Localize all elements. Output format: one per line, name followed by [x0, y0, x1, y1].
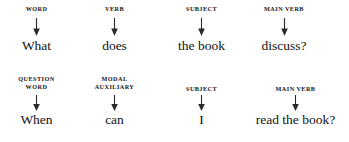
word-wrap: I [160, 109, 243, 127]
label-wrap: WORD [0, 0, 73, 16]
word-wrap: can [78, 109, 151, 127]
arrow-wrap [243, 93, 348, 109]
down-arrow-icon [280, 18, 289, 37]
sentence-word: What [22, 38, 51, 53]
label-line-1: MODAL [102, 75, 128, 82]
diagram-cell-row1-col4: MAIN VERB discuss? [243, 0, 325, 71]
label-line-1: WORD [26, 5, 48, 12]
part-of-speech-label: WORD [26, 5, 48, 13]
word-wrap: What [0, 36, 73, 53]
diagram-cell-row2-col1: QUESTION WORD When [0, 71, 73, 142]
down-arrow-icon [197, 18, 206, 37]
word-wrap: read the book? [243, 109, 348, 127]
diagram-cell-row2-col3: SUBJECT I [160, 71, 243, 142]
sentence-word: the book [178, 38, 225, 53]
diagram-cell-row2-col2: MODAL AUXILIARY can [78, 71, 151, 142]
diagram-cell-row1-col3: SUBJECT the book [160, 0, 243, 71]
arrow-wrap [0, 93, 73, 109]
part-of-speech-label: MAIN VERB [276, 85, 316, 93]
diagram-cell-row1-col2: VERB does [78, 0, 151, 71]
label-wrap: SUBJECT [160, 0, 243, 16]
sentence-word: I [199, 112, 204, 127]
label-wrap: MAIN VERB [243, 71, 348, 93]
label-line-1: SUBJECT [186, 5, 217, 12]
label-line-2: AUXILIARY [95, 83, 135, 91]
down-arrow-icon [110, 18, 119, 37]
sentence-word: read the book? [256, 112, 335, 127]
word-wrap: discuss? [243, 36, 325, 53]
label-wrap: QUESTION WORD [0, 71, 73, 93]
part-of-speech-label: SUBJECT [186, 85, 217, 93]
label-wrap: SUBJECT [160, 71, 243, 93]
label-line-1: MAIN VERB [276, 85, 316, 92]
arrow-wrap [160, 93, 243, 109]
label-line-1: MAIN VERB [264, 5, 304, 12]
sentence-word: When [20, 112, 52, 127]
sentence-structure-diagram: WORD What VERB [0, 0, 349, 142]
label-line-1: QUESTION [18, 75, 54, 82]
label-wrap: MODAL AUXILIARY [78, 71, 151, 93]
part-of-speech-label: QUESTION WORD [18, 75, 54, 90]
part-of-speech-label: VERB [105, 5, 124, 13]
label-wrap: VERB [78, 0, 151, 16]
label-line-1: SUBJECT [186, 85, 217, 92]
word-wrap: When [0, 109, 73, 127]
diagram-row-2: QUESTION WORD When MODAL AUXILIARY [0, 71, 349, 142]
sentence-word: does [102, 38, 127, 53]
diagram-cell-row2-col4: MAIN VERB read the book? [243, 71, 348, 142]
word-wrap: the book [160, 36, 243, 53]
label-line-1: VERB [105, 5, 124, 12]
word-wrap: does [78, 36, 151, 53]
arrow-wrap [78, 93, 151, 109]
diagram-cell-row1-col1: WORD What [0, 0, 73, 71]
arrow-wrap [0, 16, 73, 36]
down-arrow-icon [32, 18, 41, 37]
diagram-row-1: WORD What VERB [0, 0, 349, 71]
label-line-2: WORD [18, 83, 54, 91]
sentence-word: discuss? [262, 38, 307, 53]
part-of-speech-label: SUBJECT [186, 5, 217, 13]
part-of-speech-label: MODAL AUXILIARY [95, 75, 135, 90]
arrow-wrap [160, 16, 243, 36]
arrow-wrap [78, 16, 151, 36]
label-wrap: MAIN VERB [243, 0, 325, 16]
part-of-speech-label: MAIN VERB [264, 5, 304, 13]
sentence-word: can [105, 112, 124, 127]
arrow-wrap [243, 16, 325, 36]
